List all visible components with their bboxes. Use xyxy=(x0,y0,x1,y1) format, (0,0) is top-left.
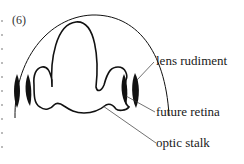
label-future-retina: future retina xyxy=(156,105,220,118)
label-optic-stalk: optic stalk xyxy=(156,136,210,149)
leader-optic-stalk xyxy=(103,106,156,143)
leader-lens-rudiment xyxy=(137,62,154,80)
outer-ectoderm xyxy=(15,15,169,118)
lens-rudiment-left xyxy=(14,74,20,108)
neural-tube-outline xyxy=(34,22,129,113)
future-retina-left xyxy=(26,74,32,106)
label-lens-rudiment: lens rudiment xyxy=(156,54,227,67)
leader-future-retina xyxy=(126,96,155,112)
